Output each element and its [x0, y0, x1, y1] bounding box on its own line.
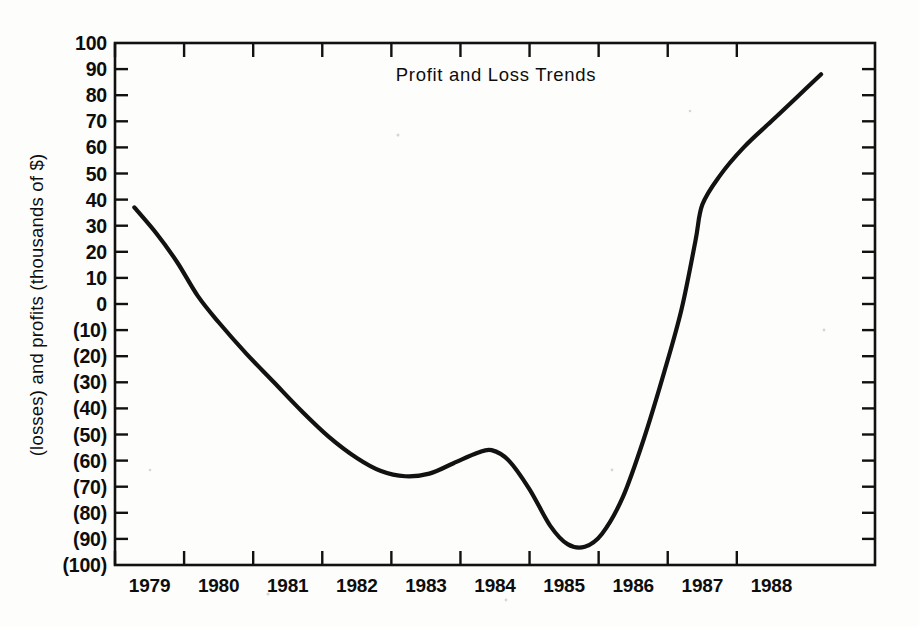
y-axis-tick-label: 30 [86, 215, 108, 237]
data-series-line [134, 74, 821, 547]
y-axis-title: (losses) and profits (thousands of $) [26, 154, 47, 457]
x-axis-tick-label: 1982 [336, 575, 377, 596]
y-axis-label-group: 1009080706050403020100(10)(20)(30)(40)(5… [62, 32, 107, 576]
y-axis-tick-label: 40 [86, 189, 108, 211]
y-axis-tick-label: (60) [73, 450, 107, 472]
x-axis-tick-label: 1985 [543, 575, 585, 596]
y-axis-tick-label: 0 [96, 293, 107, 315]
x-axis-label-group: 1979198019811982198319841985198619871988 [129, 575, 792, 596]
y-axis-tick-label: 10 [86, 267, 108, 289]
x-axis-tick-label: 1983 [405, 575, 446, 596]
y-axis-tick-label: (40) [73, 397, 107, 419]
y-axis-tick-label: (30) [73, 371, 107, 393]
y-axis-tick-label: (100) [62, 554, 107, 576]
plot-frame [115, 43, 875, 565]
y-axis-tick-label: 70 [86, 110, 108, 132]
y-axis-tick-label: (50) [73, 424, 107, 446]
x-axis-tick-label: 1987 [682, 575, 723, 596]
y-axis-tick-label: 20 [86, 241, 108, 263]
y-axis-tick-label: (80) [73, 502, 107, 524]
y-axis-tick-label: 80 [86, 84, 108, 106]
y-axis-tick-group [115, 69, 875, 539]
y-axis-tick-label: (10) [73, 319, 107, 341]
y-axis-tick-label: 50 [86, 163, 108, 185]
y-axis-tick-label: 90 [86, 58, 108, 80]
x-axis-tick-label: 1986 [612, 575, 653, 596]
x-axis-tick-label: 1981 [267, 575, 309, 596]
y-axis-tick-label: 100 [75, 32, 107, 54]
y-axis-tick-label: (90) [73, 528, 107, 550]
x-axis-tick-label: 1980 [198, 575, 239, 596]
x-axis-tick-label: 1979 [129, 575, 170, 596]
x-axis-tick-group [115, 43, 737, 565]
profit-loss-line-chart: 1009080706050403020100(10)(20)(30)(40)(5… [0, 0, 919, 627]
chart-title: Profit and Loss Trends [396, 64, 597, 85]
chart-container: 1009080706050403020100(10)(20)(30)(40)(5… [0, 0, 919, 627]
y-axis-tick-label: (20) [73, 345, 107, 367]
x-axis-tick-label: 1988 [751, 575, 792, 596]
x-axis-tick-label: 1984 [474, 575, 516, 596]
y-axis-tick-label: (70) [73, 476, 107, 498]
y-axis-tick-label: 60 [86, 136, 108, 158]
